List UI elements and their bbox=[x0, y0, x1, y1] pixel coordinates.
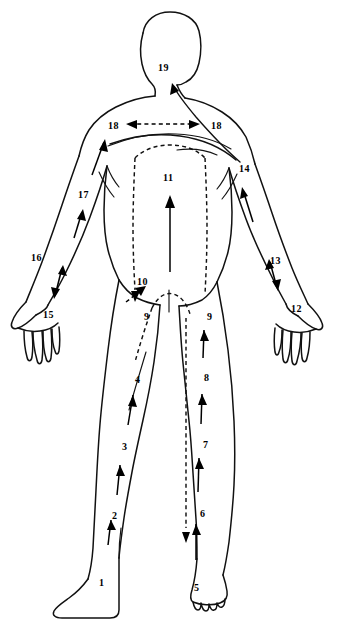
arrow-right-lowerleg-head bbox=[195, 458, 204, 469]
arrow-scapular-lower-curve bbox=[110, 135, 236, 160]
arrow-right-ankle-head bbox=[192, 524, 201, 535]
arrow-left-lowerleg-head bbox=[116, 465, 125, 476]
label-5: 5 bbox=[194, 583, 200, 593]
arrow-scapular-head-right bbox=[189, 120, 200, 129]
body-outline-group bbox=[11, 12, 322, 618]
right-leg-inner bbox=[179, 306, 197, 559]
left-foot-outline bbox=[53, 558, 119, 618]
label-9-right: 9 bbox=[207, 312, 213, 322]
label-15: 15 bbox=[43, 310, 54, 320]
arrow-midback-head bbox=[165, 195, 175, 208]
label-8: 8 bbox=[204, 373, 210, 383]
label-2: 2 bbox=[112, 511, 118, 521]
anatomical-figure: 1 2 3 4 5 6 7 8 9 9 10 11 12 13 14 15 16… bbox=[0, 0, 341, 628]
torso-left-side bbox=[104, 166, 119, 280]
arrow-left-shoulder-head bbox=[99, 139, 108, 152]
arrow-right-upperarm-head bbox=[240, 187, 248, 199]
arrow-left-upperarm-head bbox=[77, 209, 86, 221]
arrow-left-thigh-head bbox=[128, 395, 137, 407]
label-18-right: 18 bbox=[211, 121, 222, 131]
trunk-watershed-right bbox=[205, 158, 207, 294]
right-finger-4 bbox=[274, 328, 282, 355]
label-3: 3 bbox=[122, 442, 128, 452]
label-17: 17 bbox=[78, 190, 89, 200]
neck-right bbox=[177, 85, 185, 98]
label-16: 16 bbox=[31, 253, 42, 263]
right-finger-2 bbox=[291, 332, 301, 365]
left-finger-3 bbox=[43, 329, 52, 362]
arrow-scapular-head-left bbox=[126, 120, 137, 129]
right-shoulder bbox=[185, 98, 255, 164]
right-finger-1 bbox=[301, 332, 310, 362]
arrow-right-knee-head bbox=[198, 394, 207, 405]
label-1: 1 bbox=[99, 578, 105, 588]
label-6: 6 bbox=[200, 509, 206, 519]
pelvic-watershed-arch bbox=[152, 294, 190, 314]
left-finger-4 bbox=[52, 327, 60, 354]
label-7: 7 bbox=[203, 440, 209, 450]
label-11: 11 bbox=[163, 173, 174, 183]
trunk-watershed-left bbox=[133, 158, 135, 290]
right-latissimus-fold bbox=[217, 168, 229, 189]
label-18-left: 18 bbox=[108, 121, 119, 131]
left-hand-outline bbox=[11, 302, 36, 329]
right-leg-outer bbox=[217, 282, 235, 575]
left-leg-outer bbox=[88, 280, 119, 579]
left-arm-outer bbox=[26, 156, 79, 302]
left-arm-inner bbox=[48, 166, 107, 305]
label-9-left: 9 bbox=[144, 312, 150, 322]
right-toes bbox=[193, 599, 225, 611]
flow-arrows-group bbox=[51, 83, 281, 560]
left-leg-inner bbox=[119, 305, 160, 558]
label-19: 19 bbox=[158, 63, 169, 73]
hips-outline-right bbox=[179, 282, 217, 306]
label-14: 14 bbox=[239, 164, 250, 174]
arrow-right-forearm-head-down bbox=[272, 279, 281, 291]
label-10: 10 bbox=[137, 277, 148, 287]
left-finger-1 bbox=[24, 331, 33, 361]
label-4: 4 bbox=[135, 375, 141, 385]
head-outline bbox=[143, 12, 201, 85]
arrow-left-ankle-head bbox=[107, 520, 116, 530]
arrow-deep-right-ankle-head bbox=[182, 532, 190, 543]
head-left-neck bbox=[141, 33, 156, 96]
left-finger-2 bbox=[33, 331, 43, 364]
arrow-right-thigh-head bbox=[200, 330, 209, 341]
right-finger-3 bbox=[282, 330, 291, 363]
label-12: 12 bbox=[291, 304, 302, 314]
left-latissimus-fold bbox=[107, 166, 119, 187]
torso-right-side bbox=[217, 168, 232, 282]
trunk-watershed-arch bbox=[135, 145, 205, 158]
right-arm-outer bbox=[255, 164, 308, 304]
label-13: 13 bbox=[270, 256, 281, 266]
arrow-left-forearm-head-up bbox=[58, 265, 67, 276]
